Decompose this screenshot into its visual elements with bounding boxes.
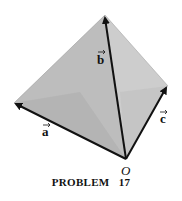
vector-c-label: c xyxy=(160,110,167,126)
tetrahedron-diagram: a b c O xyxy=(0,0,182,201)
svg-text:a: a xyxy=(42,124,49,139)
figure-caption: PROBLEM 17 xyxy=(0,176,182,188)
vector-b-label: b xyxy=(97,50,105,67)
svg-text:b: b xyxy=(97,52,104,67)
svg-text:c: c xyxy=(160,111,166,126)
vector-a-label: a xyxy=(42,123,50,139)
